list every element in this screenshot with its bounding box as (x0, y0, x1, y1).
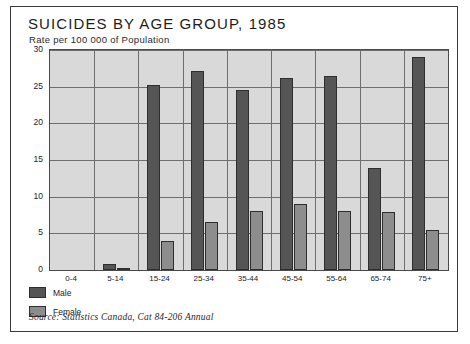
gridline-vertical (360, 50, 361, 270)
gridline-horizontal (50, 87, 448, 88)
x-axis-tick-label: 25-34 (194, 274, 214, 283)
gridline-vertical (315, 50, 316, 270)
x-axis-tick-label: 0-4 (65, 274, 77, 283)
bar-female-65-74 (382, 212, 395, 270)
x-axis-tick-label: 45-54 (282, 274, 302, 283)
bar-male-25-34 (191, 71, 204, 270)
x-axis-tick-label: 35-44 (238, 274, 258, 283)
bar-female-45-54 (294, 204, 307, 270)
x-axis-tick-label: 15-24 (149, 274, 169, 283)
bar-male-65-74 (368, 168, 381, 270)
y-axis-tick-label: 15 (23, 154, 43, 164)
gridline-horizontal (50, 50, 448, 51)
chart-title: SUICIDES BY AGE GROUP, 1985 (28, 15, 286, 32)
chart-figure: SUICIDES BY AGE GROUP, 1985 Rate per 100… (10, 6, 458, 332)
legend-label: Male (53, 288, 71, 298)
gridline-vertical (183, 50, 184, 270)
x-axis-tick-label: 75+ (418, 274, 432, 283)
bar-female-25-34 (205, 222, 218, 270)
gridline-vertical (404, 50, 405, 270)
bar-female-75+ (426, 230, 439, 270)
gridline-vertical (271, 50, 272, 270)
legend-swatch-icon (29, 287, 46, 298)
bar-male-15-24 (147, 85, 160, 270)
x-axis-tick-label: 55-64 (326, 274, 346, 283)
x-axis-tick-label: 65-74 (370, 274, 390, 283)
y-axis-tick-label: 30 (23, 44, 43, 54)
plot-area (49, 49, 449, 271)
gridline-vertical (138, 50, 139, 270)
legend-item-male[interactable]: Male (29, 287, 71, 298)
chart-subtitle: Rate per 100 000 of Population (29, 34, 170, 45)
gridline-vertical (227, 50, 228, 270)
bar-female-5-14 (117, 268, 130, 270)
bar-male-5-14 (103, 264, 116, 270)
source-note: Source: Statistics Canada, Cat 84-206 An… (29, 312, 214, 322)
bar-female-55-64 (338, 211, 351, 270)
gridline-horizontal (50, 197, 448, 198)
gridline-vertical (94, 50, 95, 270)
gridline-horizontal (50, 123, 448, 124)
bar-male-45-54 (280, 78, 293, 270)
x-axis-tick-label: 5-14 (107, 274, 123, 283)
y-axis-tick-label: 10 (23, 191, 43, 201)
y-axis-tick-label: 25 (23, 81, 43, 91)
y-axis-tick-label: 20 (23, 117, 43, 127)
bar-male-35-44 (236, 90, 249, 270)
bar-female-15-24 (161, 241, 174, 270)
y-axis-tick-label: 0 (23, 264, 43, 274)
gridline-horizontal (50, 160, 448, 161)
bar-male-75+ (412, 57, 425, 270)
bar-female-35-44 (250, 211, 263, 270)
y-axis-tick-label: 5 (23, 227, 43, 237)
bar-male-55-64 (324, 76, 337, 270)
